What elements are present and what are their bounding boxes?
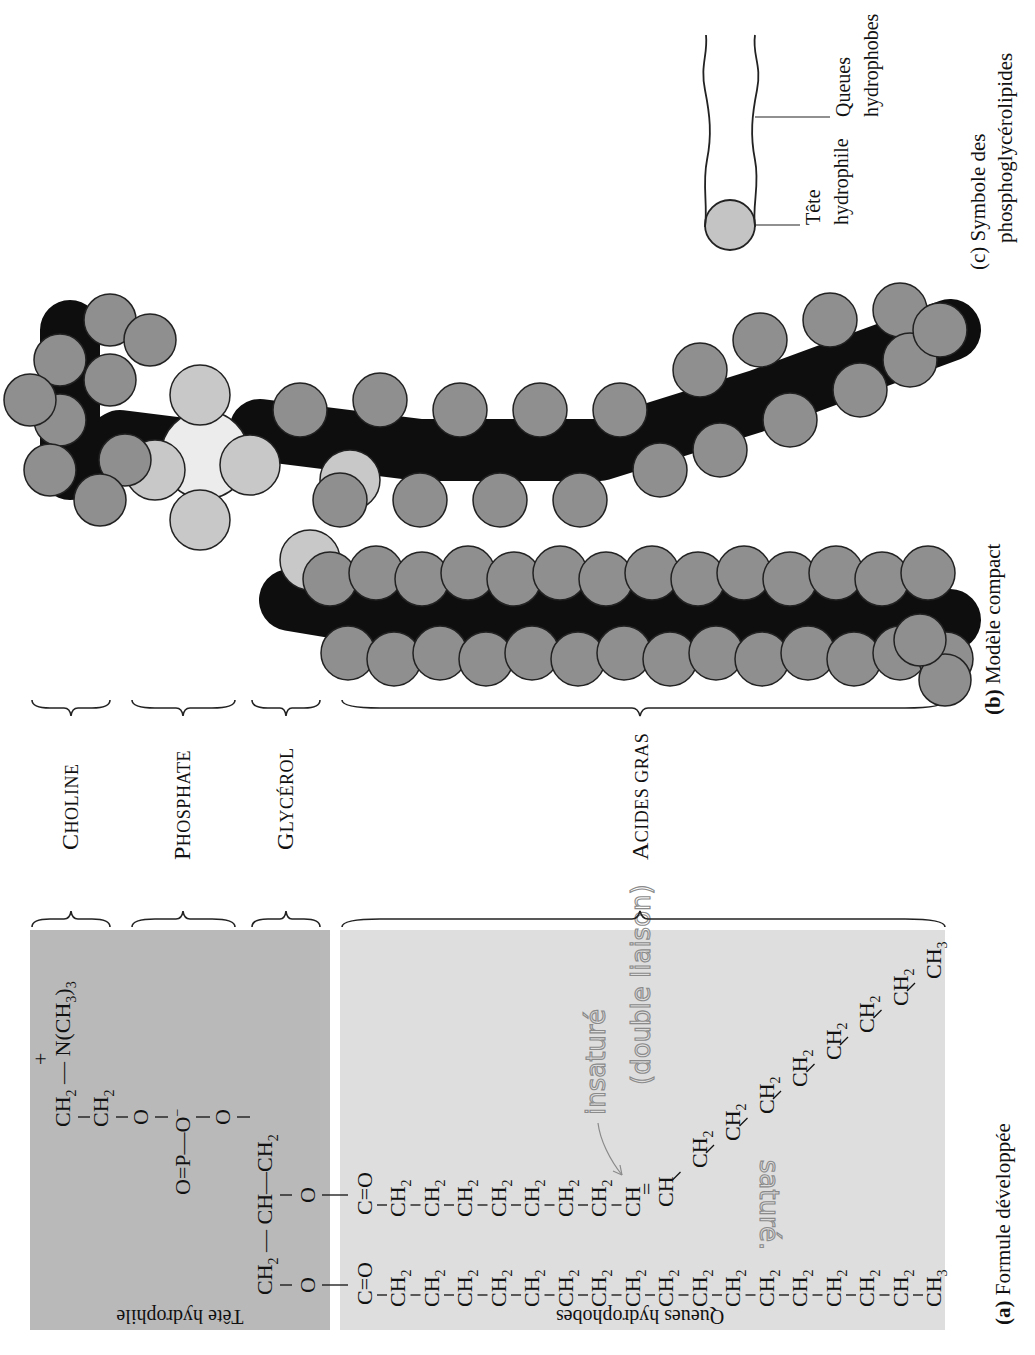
atom-sphere	[643, 632, 697, 686]
brace-glycerol-right	[252, 700, 320, 716]
note-saturated: saturé.	[754, 1160, 784, 1251]
choline-row: CH2 — N(CH3)3	[50, 981, 79, 1127]
tail-label-line1: Queues	[832, 57, 854, 117]
symbol-tail-2-icon	[703, 35, 710, 227]
atom-sphere	[593, 383, 647, 437]
atom-sphere	[633, 443, 687, 497]
caption-b: (b) Modèle compact	[981, 543, 1005, 715]
atom-sphere	[533, 546, 587, 600]
bracket-labels: CHOLINE PHOSPHATE GLYCÉROL ACIDES GRAS	[57, 733, 653, 860]
atom-sphere	[717, 546, 771, 600]
panel-c-labels: Tête hydrophile Queues hydrophobes	[740, 13, 883, 225]
caption-c-line2: phosphoglycérolipides	[993, 53, 1017, 243]
panel-c-symbol	[703, 35, 758, 250]
choline-plus: +	[28, 1053, 53, 1065]
atom-sphere	[74, 474, 126, 526]
caption-c-line1: (c) Symbole des	[966, 134, 990, 270]
label-fatty-acids: ACIDES GRAS	[627, 733, 653, 860]
atom-sphere	[809, 546, 863, 600]
brace-phosphate-right	[132, 700, 235, 716]
atom-sphere	[693, 423, 747, 477]
caption-a: (a) Formule développée	[991, 1123, 1015, 1325]
head-panel-label: Tête hydrophile	[116, 1305, 243, 1328]
atom-sphere	[395, 552, 449, 606]
atom-sphere	[894, 614, 946, 666]
region-brackets	[32, 700, 945, 927]
label-glycerol: GLYCÉROL	[272, 747, 298, 850]
atom-sphere	[913, 303, 967, 357]
atom-sphere	[441, 546, 495, 600]
atom-sphere	[220, 435, 280, 495]
carbonyl-row: C=O	[352, 1262, 377, 1305]
label-phosphate: PHOSPHATE	[169, 750, 195, 860]
atom-sphere	[487, 552, 541, 606]
atom-sphere	[827, 632, 881, 686]
ester-o-row: O	[295, 1277, 320, 1293]
atom-sphere	[513, 383, 567, 437]
tail-label-line2: hydrophobes	[860, 13, 883, 117]
phospholipid-figure: Tête hydrophile Queues hydrophobes CH2 —…	[0, 0, 1035, 1355]
head-label-line2: hydrophile	[830, 138, 853, 225]
phosphate-row: O=P—O−	[170, 1109, 195, 1195]
atom-sphere	[803, 293, 857, 347]
svg-text:C=O: C=O	[352, 1172, 377, 1215]
atom-sphere	[413, 626, 467, 680]
label-choline: CHOLINE	[57, 764, 83, 851]
atom-sphere	[170, 365, 230, 425]
note-unsaturated: insaturé	[581, 1009, 611, 1115]
atom-sphere	[473, 473, 527, 527]
brace-phosphate-left	[132, 911, 235, 927]
atom-sphere	[551, 632, 605, 686]
atom-sphere	[597, 626, 651, 680]
atom-sphere	[24, 444, 76, 496]
brace-choline-left	[32, 911, 110, 927]
atom-sphere	[505, 626, 559, 680]
figure-canvas: Tête hydrophile Queues hydrophobes CH2 —…	[0, 0, 1035, 1355]
atom-sphere	[763, 552, 817, 606]
atom-sphere	[833, 363, 887, 417]
phosphate-o1-row: O	[128, 1109, 153, 1125]
glycerol-row: CH2 — CH—CH2	[252, 1134, 281, 1295]
atom-sphere	[625, 546, 679, 600]
atom-sphere	[553, 473, 607, 527]
atom-sphere	[733, 313, 787, 367]
atom-sphere	[4, 374, 56, 426]
atom-sphere	[84, 354, 136, 406]
atom-sphere	[459, 632, 513, 686]
atom-sphere	[735, 632, 789, 686]
atom-sphere	[303, 552, 357, 606]
atom-sphere	[124, 314, 176, 366]
atom-sphere	[313, 473, 367, 527]
atom-sphere	[170, 490, 230, 550]
atom-sphere	[855, 552, 909, 606]
svg-text:O: O	[295, 1187, 320, 1203]
atom-sphere	[671, 552, 725, 606]
atom-sphere	[273, 383, 327, 437]
atom-sphere	[689, 626, 743, 680]
phosphate-o2-row: O	[210, 1109, 235, 1125]
brace-glycerol-left	[252, 911, 320, 927]
head-label-line1: Tête	[802, 189, 824, 225]
atom-sphere	[321, 626, 375, 680]
atom-sphere	[433, 383, 487, 437]
atom-sphere	[367, 632, 421, 686]
tail-panel-label: Queues hydrophobes	[556, 1305, 725, 1328]
atom-sphere	[579, 552, 633, 606]
panel-b-space-filling-model	[4, 283, 973, 706]
symbol-tail-1-icon	[752, 35, 758, 227]
atom-sphere	[781, 626, 835, 680]
atom-sphere	[349, 546, 403, 600]
brace-fatty-acids-right	[342, 700, 945, 716]
atom-sphere	[673, 343, 727, 397]
atom-sphere	[353, 373, 407, 427]
atom-sphere	[763, 393, 817, 447]
atom-sphere	[901, 546, 955, 600]
atom-sphere	[393, 473, 447, 527]
brace-choline-right	[32, 700, 110, 716]
chain-unit: CH	[653, 1176, 678, 1207]
symbol-head-icon	[705, 200, 755, 250]
